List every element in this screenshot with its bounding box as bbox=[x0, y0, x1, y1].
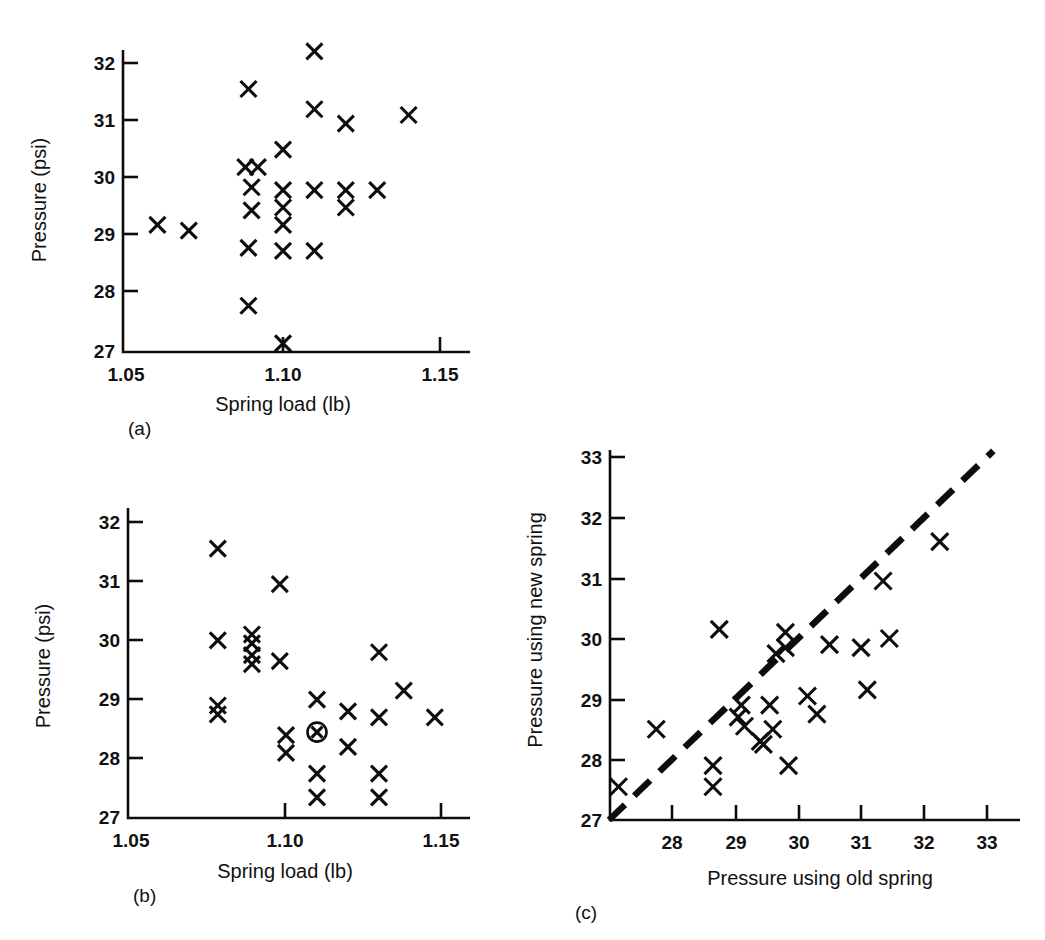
panel-c-xtick-30: 30 bbox=[788, 832, 809, 853]
panel-c-y-ticklabels: 33 32 31 30 29 28 27 bbox=[581, 447, 603, 831]
panel-c-xtick-31: 31 bbox=[850, 832, 872, 853]
panel-a-axes bbox=[123, 50, 470, 352]
panel-b-ytick-30: 30 bbox=[99, 630, 120, 651]
panel-a-svg: 32 31 30 29 28 27 1.05 1.10 1.15 Spring … bbox=[0, 0, 500, 440]
panel-c-axes bbox=[610, 450, 1020, 820]
panel-c-xtick-29: 29 bbox=[725, 832, 746, 853]
panel-c-ytick-27: 27 bbox=[581, 810, 602, 831]
panel-b-ytick-27: 27 bbox=[99, 807, 120, 828]
panel-b-x-ticks bbox=[285, 803, 441, 818]
panel-c-reference-line bbox=[609, 451, 993, 820]
panel-a-x-ticklabels: 1.05 1.10 1.15 bbox=[108, 364, 459, 385]
panel-b-highlighted-point bbox=[308, 723, 327, 742]
panel-a-label: (a) bbox=[128, 418, 151, 440]
panel-c-xtick-32: 32 bbox=[913, 832, 934, 853]
panel-b-svg: 32 31 30 29 28 27 1.05 1.10 1.15 Spring … bbox=[0, 480, 500, 940]
panel-b-ytick-28: 28 bbox=[99, 748, 120, 769]
panel-c-ytick-32: 32 bbox=[581, 508, 602, 529]
panel-c-xlabel: Pressure using old spring bbox=[707, 867, 933, 889]
panel-a-ytick-30: 30 bbox=[94, 167, 115, 188]
scatter-panel-c: 33 32 31 30 29 28 27 28 29 30 31 32 33 P… bbox=[520, 420, 1045, 940]
panel-b-label: (b) bbox=[133, 885, 156, 907]
panel-a-axis-lines bbox=[123, 50, 470, 352]
panel-a-xtick-115: 1.15 bbox=[422, 364, 459, 385]
panel-c-xtick-28: 28 bbox=[661, 832, 682, 853]
panel-c-axis-lines bbox=[610, 450, 1020, 820]
panel-b-ytick-29: 29 bbox=[99, 689, 120, 710]
panel-a-ytick-32: 32 bbox=[94, 53, 115, 74]
figure-container: 32 31 30 29 28 27 1.05 1.10 1.15 Spring … bbox=[0, 0, 1045, 940]
panel-c-xtick-33: 33 bbox=[976, 832, 997, 853]
panel-a-ytick-27: 27 bbox=[94, 341, 115, 362]
scatter-panel-b: 32 31 30 29 28 27 1.05 1.10 1.15 Spring … bbox=[0, 480, 500, 940]
panel-b-ytick-31: 31 bbox=[99, 571, 121, 592]
panel-a-xtick-105: 1.05 bbox=[108, 364, 145, 385]
panel-a-ytick-31: 31 bbox=[94, 110, 116, 131]
scatter-panel-a: 32 31 30 29 28 27 1.05 1.10 1.15 Spring … bbox=[0, 0, 500, 440]
panel-b-axes bbox=[128, 508, 470, 818]
panel-c-svg: 33 32 31 30 29 28 27 28 29 30 31 32 33 P… bbox=[520, 420, 1045, 940]
panel-c-ytick-28: 28 bbox=[581, 750, 602, 771]
panel-c-ytick-29: 29 bbox=[581, 690, 602, 711]
panel-b-xtick-105: 1.05 bbox=[113, 830, 150, 851]
panel-c-label: (c) bbox=[575, 902, 597, 924]
panel-b-ytick-32: 32 bbox=[99, 512, 120, 533]
panel-a-ylabel: Pressure (psi) bbox=[28, 138, 50, 262]
panel-c-ylabel: Pressure using new spring bbox=[524, 512, 546, 748]
panel-c-x-ticklabels: 28 29 30 31 32 33 bbox=[661, 832, 997, 853]
panel-c-datapoints bbox=[610, 533, 948, 795]
panel-b-datapoints bbox=[210, 541, 443, 806]
panel-a-xlabel: Spring load (lb) bbox=[215, 393, 351, 415]
panel-a-datapoints bbox=[149, 43, 416, 351]
panel-a-x-ticks bbox=[283, 337, 440, 352]
panel-b-axis-lines bbox=[128, 508, 470, 818]
panel-a-y-ticks bbox=[123, 63, 138, 291]
panel-c-ytick-30: 30 bbox=[581, 629, 602, 650]
panel-c-ytick-33: 33 bbox=[581, 447, 602, 468]
panel-b-y-ticks bbox=[128, 522, 143, 758]
panel-a-ytick-28: 28 bbox=[94, 281, 115, 302]
panel-c-y-ticks bbox=[610, 457, 625, 760]
panel-a-xtick-110: 1.10 bbox=[265, 364, 302, 385]
panel-b-xtick-115: 1.15 bbox=[423, 830, 460, 851]
panel-c-x-ticks bbox=[672, 805, 987, 820]
panel-b-x-ticklabels: 1.05 1.10 1.15 bbox=[113, 830, 460, 851]
panel-c-ytick-31: 31 bbox=[581, 569, 603, 590]
panel-a-y-ticklabels: 32 31 30 29 28 27 bbox=[94, 53, 116, 362]
panel-b-y-ticklabels: 32 31 30 29 28 27 bbox=[99, 512, 121, 828]
panel-b-xtick-110: 1.10 bbox=[267, 830, 304, 851]
panel-a-ytick-29: 29 bbox=[94, 224, 115, 245]
panel-b-ylabel: Pressure (psi) bbox=[32, 604, 54, 728]
panel-b-xlabel: Spring load (lb) bbox=[217, 860, 353, 882]
